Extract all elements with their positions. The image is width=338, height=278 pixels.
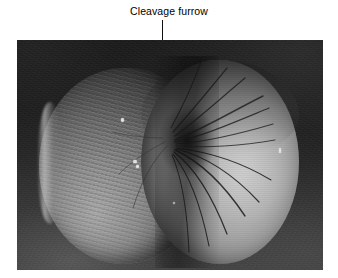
micrograph-plate — [17, 40, 323, 270]
figure-micrograph-cleavage-furrow: Cleavage furrow — [0, 0, 338, 278]
plate-film-grain — [17, 40, 323, 270]
caption-label: Cleavage furrow — [0, 5, 338, 18]
